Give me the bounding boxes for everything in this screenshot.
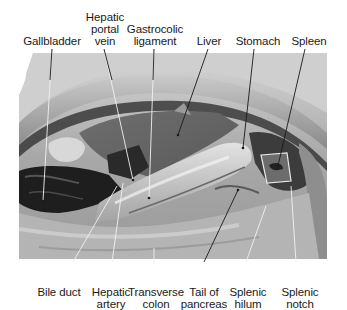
label-bile-duct: Bile duct — [32, 286, 86, 298]
leader-tail-of-pancreas — [204, 190, 238, 262]
label-gallbladder: Gallbladder — [14, 35, 90, 47]
label-transverse-colon: Transverse colon — [126, 286, 186, 310]
anatomy-figure: Gallbladder Hepatic portal vein Gastroco… — [0, 0, 347, 310]
leader-hepatic-portal-vein — [104, 49, 133, 180]
label-splenic-notch: Splenic notch — [278, 286, 322, 310]
leader-liver — [178, 49, 208, 135]
leader-bile-duct — [73, 186, 117, 262]
label-splenic-hilum: Splenic hilum — [226, 286, 270, 310]
leader-spleen — [277, 49, 305, 170]
label-gastrocolic-ligament: Gastrocolic ligament — [122, 23, 188, 47]
label-tail-of-pancreas: Tail of pancreas — [178, 286, 230, 310]
leader-hepatic-artery — [112, 183, 123, 262]
label-stomach: Stomach — [232, 35, 284, 47]
leader-stomach — [243, 49, 254, 148]
label-spleen: Spleen — [287, 35, 331, 47]
leader-splenic-notch — [291, 186, 296, 262]
label-liver: Liver — [192, 35, 226, 47]
leader-splenic-hilum — [246, 206, 266, 262]
